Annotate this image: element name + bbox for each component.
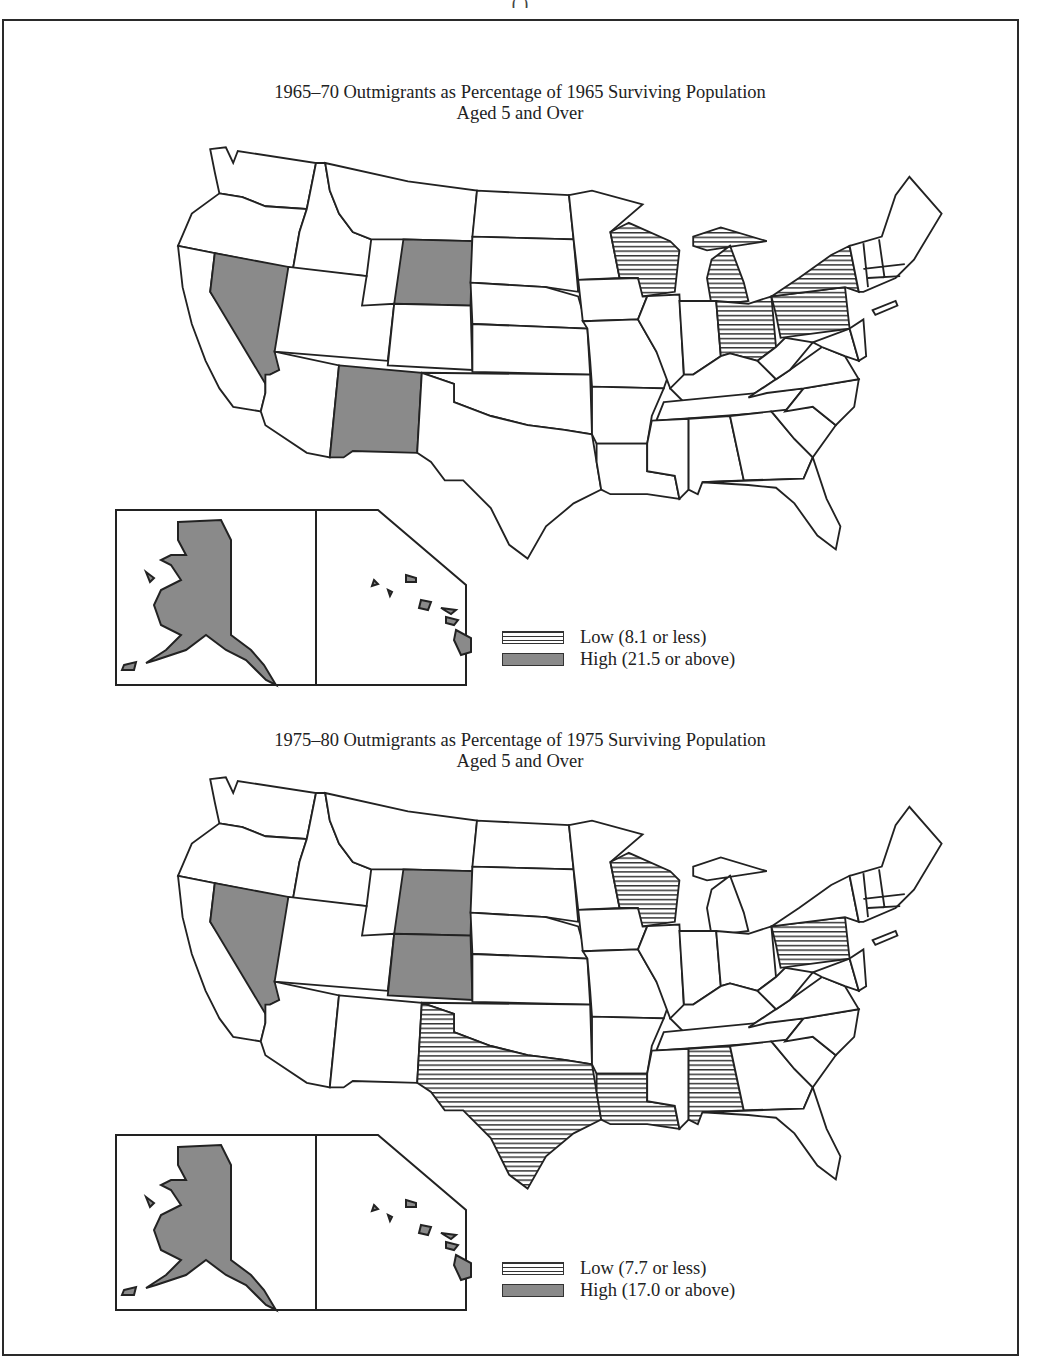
- state-ak: [146, 1145, 276, 1310]
- state-ak: [146, 572, 154, 582]
- hatch-swatch-icon: [502, 1262, 564, 1275]
- legend-item-low: Low (7.7 or less): [502, 1257, 735, 1279]
- legend-item-high: High (17.0 or above): [502, 1279, 735, 1301]
- state-co: [388, 304, 473, 370]
- state-ks: [472, 954, 590, 1005]
- state-ne_states: [850, 177, 942, 292]
- state-ne_states: [850, 807, 942, 922]
- state-ia: [578, 278, 647, 321]
- state-ks: [472, 324, 590, 375]
- us-choropleth-map: [0, 0, 1040, 700]
- gray-swatch-icon: [502, 1284, 564, 1297]
- state-li: [873, 301, 898, 315]
- map-panel-1975-80: 1975–80 Outmigrants as Percentage of 197…: [0, 630, 1040, 1369]
- state-ut: [275, 267, 395, 361]
- state-nm: [330, 995, 422, 1087]
- legend-label-low: Low (7.7 or less): [580, 1258, 706, 1279]
- state-wy: [394, 869, 472, 935]
- state-ak: [146, 1197, 154, 1207]
- state-nm: [330, 365, 422, 457]
- state-oh: [716, 296, 776, 360]
- state-mi: [693, 857, 767, 935]
- state-hi: [372, 1200, 471, 1280]
- state-nd: [472, 821, 573, 870]
- state-ia: [578, 908, 647, 951]
- state-li: [873, 931, 898, 945]
- state-nd: [472, 191, 573, 240]
- state-mi: [693, 227, 767, 305]
- state-ut: [275, 897, 395, 991]
- state-co: [388, 934, 473, 1000]
- state-ak: [122, 1287, 136, 1295]
- state-wy: [394, 239, 472, 305]
- legend-label-high: High (17.0 or above): [580, 1280, 735, 1301]
- state-oh: [716, 926, 776, 990]
- map-legend: Low (7.7 or less) High (17.0 or above): [502, 1257, 735, 1301]
- map-panel-1965-70: 1965–70 Outmigrants as Percentage of 196…: [0, 0, 1040, 700]
